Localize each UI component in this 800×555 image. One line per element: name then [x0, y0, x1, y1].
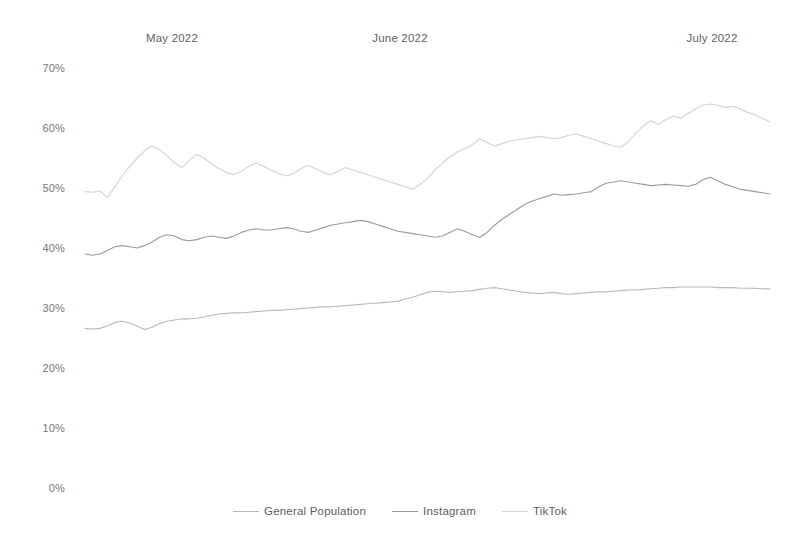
series-line-tiktok — [85, 104, 770, 198]
series-line-instagram — [85, 177, 770, 255]
legend-swatch-tiktok — [502, 511, 528, 512]
series-line-general-population — [85, 287, 770, 330]
legend-swatch-instagram — [392, 511, 418, 512]
legend-label-general-population: General Population — [264, 505, 366, 517]
legend-swatch-general-population — [233, 511, 259, 512]
legend-item-tiktok[interactable]: TikTok — [502, 505, 567, 517]
legend-label-instagram: Instagram — [423, 505, 476, 517]
legend-item-instagram[interactable]: Instagram — [392, 505, 476, 517]
legend-item-general-population[interactable]: General Population — [233, 505, 366, 517]
line-chart: May 2022 June 2022 July 2022 70% 60% 50%… — [0, 0, 800, 555]
series-lines — [85, 104, 770, 330]
legend-label-tiktok: TikTok — [533, 505, 567, 517]
chart-legend: General Population Instagram TikTok — [0, 505, 800, 517]
plot-area — [0, 0, 800, 555]
